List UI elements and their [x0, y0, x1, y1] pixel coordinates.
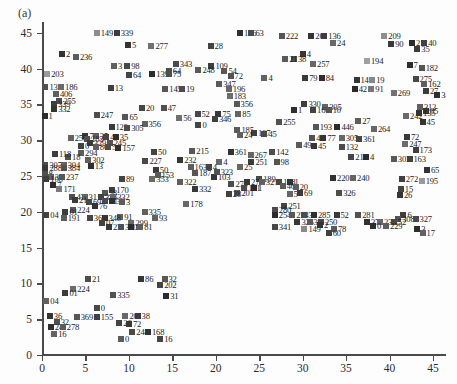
data-point[interactable]	[369, 77, 375, 83]
data-point[interactable]	[56, 186, 62, 192]
data-point[interactable]	[216, 81, 222, 87]
data-point[interactable]	[192, 186, 198, 192]
data-point[interactable]	[195, 67, 201, 73]
data-point[interactable]	[276, 119, 282, 125]
data-point[interactable]	[413, 147, 419, 153]
data-point[interactable]	[282, 56, 288, 62]
data-point[interactable]	[42, 84, 48, 90]
data-point[interactable]	[139, 105, 145, 111]
data-point[interactable]	[208, 43, 214, 49]
data-point[interactable]	[226, 191, 232, 197]
data-point[interactable]	[421, 81, 427, 87]
data-point[interactable]	[47, 313, 53, 319]
data-point[interactable]	[237, 30, 243, 36]
data-point[interactable]	[423, 88, 429, 94]
data-point[interactable]	[280, 183, 286, 189]
data-point[interactable]	[368, 86, 374, 92]
data-point[interactable]	[94, 30, 100, 36]
data-point[interactable]	[326, 230, 332, 236]
data-point[interactable]	[296, 142, 302, 148]
data-point[interactable]	[145, 329, 151, 335]
data-point[interactable]	[74, 314, 80, 320]
data-point[interactable]	[355, 212, 361, 218]
data-point[interactable]	[94, 314, 100, 320]
data-point[interactable]	[330, 40, 336, 46]
data-point[interactable]	[94, 305, 100, 311]
data-point[interactable]	[115, 145, 121, 151]
data-point[interactable]	[73, 54, 79, 60]
data-point[interactable]	[279, 33, 285, 39]
data-point[interactable]	[114, 30, 120, 36]
data-point[interactable]	[68, 135, 74, 141]
data-point[interactable]	[269, 149, 275, 155]
data-point[interactable]	[192, 170, 198, 176]
data-point[interactable]	[413, 76, 419, 82]
data-point[interactable]	[334, 124, 340, 130]
data-point[interactable]	[420, 119, 426, 125]
data-point[interactable]	[129, 329, 135, 335]
data-point[interactable]	[424, 167, 430, 173]
data-point[interactable]	[122, 114, 128, 120]
data-point[interactable]	[407, 156, 413, 162]
data-point[interactable]	[398, 186, 404, 192]
data-point[interactable]	[294, 219, 300, 225]
data-point[interactable]	[402, 141, 408, 147]
data-point[interactable]	[124, 63, 130, 69]
data-point[interactable]	[301, 226, 307, 232]
data-point[interactable]	[44, 71, 50, 77]
data-point[interactable]	[88, 163, 94, 169]
data-point[interactable]	[92, 203, 98, 209]
data-point[interactable]	[106, 224, 112, 230]
data-point[interactable]	[391, 90, 397, 96]
data-point[interactable]	[99, 220, 105, 226]
data-point[interactable]	[43, 176, 49, 182]
data-point[interactable]	[228, 181, 234, 187]
data-point[interactable]	[311, 143, 317, 149]
data-point[interactable]	[319, 75, 325, 81]
data-point[interactable]	[228, 149, 234, 155]
data-point[interactable]	[48, 324, 54, 330]
data-point[interactable]	[434, 92, 440, 98]
data-point[interactable]	[119, 199, 125, 205]
data-point[interactable]	[53, 91, 59, 97]
data-point[interactable]	[124, 125, 130, 131]
data-point[interactable]	[78, 143, 84, 149]
data-point[interactable]	[355, 118, 361, 124]
data-point[interactable]	[414, 46, 420, 52]
data-point[interactable]	[125, 42, 131, 48]
data-point[interactable]	[195, 122, 201, 128]
data-point[interactable]	[248, 30, 254, 36]
data-point[interactable]	[52, 151, 58, 157]
data-point[interactable]	[128, 224, 134, 230]
data-point[interactable]	[272, 212, 278, 218]
data-point[interactable]	[261, 131, 267, 137]
data-point[interactable]	[87, 215, 93, 221]
data-point[interactable]	[50, 182, 56, 188]
data-point[interactable]	[291, 107, 297, 113]
data-point[interactable]	[51, 331, 57, 337]
data-point[interactable]	[287, 191, 293, 197]
data-point[interactable]	[161, 105, 167, 111]
data-point[interactable]	[397, 192, 403, 198]
data-point[interactable]	[157, 336, 163, 342]
data-point[interactable]	[177, 179, 183, 185]
data-point[interactable]	[105, 144, 111, 150]
data-point[interactable]	[321, 33, 327, 39]
data-point[interactable]	[126, 321, 132, 327]
data-point[interactable]	[420, 230, 426, 236]
data-point[interactable]	[163, 293, 169, 299]
data-point[interactable]	[348, 154, 354, 160]
data-point[interactable]	[227, 93, 233, 99]
data-point[interactable]	[317, 222, 323, 228]
data-point[interactable]	[138, 276, 144, 282]
data-point[interactable]	[151, 149, 157, 155]
data-point[interactable]	[152, 215, 158, 221]
data-point[interactable]	[72, 197, 78, 203]
data-point[interactable]	[183, 201, 189, 207]
data-point[interactable]	[119, 176, 125, 182]
data-point[interactable]	[111, 63, 117, 69]
data-point[interactable]	[43, 212, 49, 218]
data-point[interactable]	[326, 107, 332, 113]
data-point[interactable]	[166, 71, 172, 77]
data-point[interactable]	[155, 172, 161, 178]
